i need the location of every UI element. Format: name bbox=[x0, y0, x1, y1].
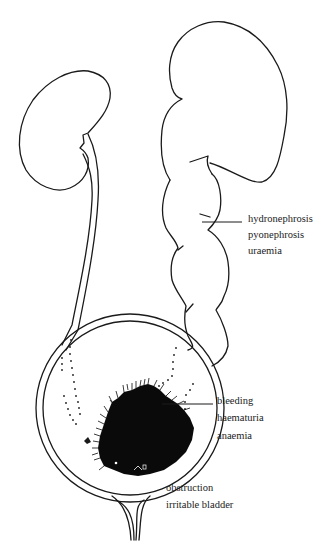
urinary-tract-diagram: hydronephrosis pyonephrosis uraemia blee… bbox=[0, 0, 332, 556]
label-bleeding: bleeding bbox=[217, 395, 254, 406]
label-pyonephrosis: pyonephrosis bbox=[248, 229, 304, 240]
label-irritable-bladder: irritable bladder bbox=[166, 499, 234, 510]
dilated-ureter-left-edge bbox=[163, 180, 193, 350]
label-anaemia: anaemia bbox=[217, 430, 252, 441]
left-kidney bbox=[19, 71, 110, 190]
label-uraemia: uraemia bbox=[248, 245, 282, 256]
bladder-tumour bbox=[92, 378, 194, 476]
label-hydronephrosis: hydronephrosis bbox=[248, 213, 313, 224]
dilated-ureter-right-edge bbox=[208, 174, 229, 366]
left-ureter bbox=[66, 134, 99, 350]
label-haematuria: haematuria bbox=[217, 412, 264, 423]
label-obstruction: obstruction bbox=[166, 482, 214, 493]
right-kidney bbox=[161, 22, 287, 182]
ureteric-orifice bbox=[84, 437, 91, 444]
